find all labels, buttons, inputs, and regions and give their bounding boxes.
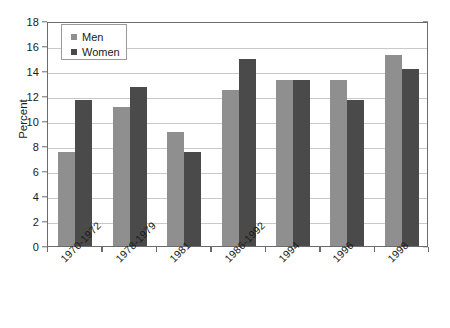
y-tick-label: 10	[27, 117, 39, 128]
y-tick-label: 8	[33, 142, 39, 153]
legend-item-men: Men	[71, 30, 126, 44]
bar-men-1986-1992	[222, 90, 239, 246]
x-tick-mark	[374, 247, 375, 252]
bar-women-1981	[184, 152, 201, 246]
bar-women-1996	[347, 100, 364, 246]
bar-women-1994	[293, 80, 310, 246]
bar-women-1998	[402, 69, 419, 247]
bar-women-1978-1979	[130, 87, 147, 246]
x-tick-mark	[156, 247, 157, 252]
x-tick-mark	[47, 247, 48, 252]
bar-men-1970-1972	[58, 152, 75, 246]
y-axis-ticks: 024681012141618	[0, 0, 47, 272]
y-tick-label: 14	[27, 67, 39, 78]
bar-chart: Percent 024681012141618 1970-19721978-19…	[0, 0, 450, 328]
y-tick-label: 6	[33, 167, 39, 178]
bar-men-1996	[330, 80, 347, 246]
bar-men-1998	[385, 55, 402, 246]
gridline	[48, 73, 427, 74]
chart-legend: Men Women	[61, 24, 127, 60]
x-tick-mark	[319, 247, 320, 252]
bar-men-1978-1979	[113, 107, 130, 246]
legend-swatch-men-icon	[71, 34, 77, 40]
legend-label-women: Women	[82, 47, 120, 58]
legend-item-women: Women	[71, 45, 126, 59]
bar-women-1986-1992	[239, 59, 256, 247]
bar-men-1981	[167, 132, 184, 246]
x-tick-mark	[101, 247, 102, 252]
x-tick-mark	[265, 247, 266, 252]
y-tick-label: 0	[33, 242, 39, 253]
y-tick-label: 18	[27, 17, 39, 28]
bar-men-1994	[276, 80, 293, 246]
x-tick-mark	[210, 247, 211, 252]
x-tick-mark	[428, 247, 429, 252]
y-tick-label: 12	[27, 92, 39, 103]
y-tick-label: 16	[27, 42, 39, 53]
y-tick-label: 2	[33, 217, 39, 228]
legend-swatch-women-icon	[71, 49, 77, 55]
y-tick-label: 4	[33, 192, 39, 203]
legend-label-men: Men	[82, 32, 103, 43]
